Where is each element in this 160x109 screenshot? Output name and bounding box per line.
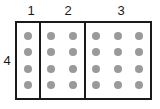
dot [114,65,122,73]
dot-row [41,28,84,44]
dot [135,65,143,73]
section-2 [39,23,84,98]
dot [114,48,122,56]
grid-box [15,21,152,100]
dot-row [86,77,151,93]
dot [92,65,100,73]
dot-row [86,28,151,44]
dot [114,32,122,40]
dot [114,81,122,89]
column-label-2: 2 [58,4,78,17]
dot [47,81,55,89]
dot-row [41,61,84,77]
dot [69,65,77,73]
dot [92,48,100,56]
dot-row [41,77,84,93]
dot [24,81,32,89]
dot-row [17,28,39,44]
dot-row [86,61,151,77]
dot [47,65,55,73]
dot [69,81,77,89]
column-label-1: 1 [21,4,41,17]
dot [69,32,77,40]
dot [92,81,100,89]
dot [69,48,77,56]
dot-row [41,44,84,60]
column-label-3: 3 [111,4,131,17]
dot [135,32,143,40]
dot-row [17,44,39,60]
dot-row [86,44,151,60]
section-3 [84,23,151,98]
dot-grid-diagram: 1 2 3 4 [0,0,160,109]
dot-row [17,77,39,93]
dot-row [17,61,39,77]
dot [24,65,32,73]
dot [47,48,55,56]
row-label-4: 4 [0,54,14,67]
dot [24,48,32,56]
dot [135,48,143,56]
dot [47,32,55,40]
dot [24,32,32,40]
dot [92,32,100,40]
dot [135,81,143,89]
section-1 [17,23,39,98]
